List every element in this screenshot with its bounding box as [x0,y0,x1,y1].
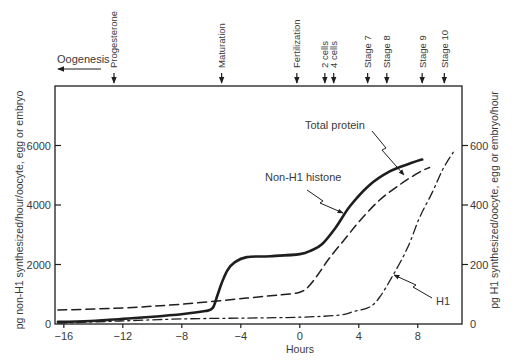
oogenesis-label: Oogenesis [57,53,110,65]
chart-figure: −16−12−8−4048 0200040006000 0200400600 P… [0,0,517,362]
event-label: Stage 9 [417,35,428,68]
event-fertilization: Fertilization [291,19,302,83]
curve-label-total-protein: Total protein [305,119,404,175]
event-progesterone: Progesterone [108,11,119,83]
y-axis-left-ticks: 0200040006000 [27,140,61,331]
x-axis-title: Hours [286,343,314,355]
event-label: Stage 8 [381,35,392,68]
y-left-tick-label: 2000 [27,259,51,271]
series-total-protein [58,168,430,311]
h1-label: H1 [436,295,450,307]
y-left-tick-label: 4000 [27,199,51,211]
y-right-tick-label: 200 [470,259,488,271]
developmental-events: ProgesteroneMaturationFertilization2 cel… [108,11,449,83]
data-series [58,152,453,323]
y-axis-right-ticks: 0200400600 [462,140,488,331]
event-stage-8: Stage 8 [381,35,392,83]
event-stage-7: Stage 7 [362,35,373,83]
series-non-h1-histone [58,160,422,322]
y-right-tick-label: 0 [470,318,476,330]
y-right-tick-label: 600 [470,140,488,152]
x-tick-label: −8 [176,330,189,342]
x-axis-ticks: −16−12−8−4048 [55,324,421,342]
curve-label-h1: H1 [394,275,450,307]
event-label: Maturation [216,23,227,68]
y-axis-left-title: pg non-H1 synthesized/hour/oocyte, egg o… [13,90,25,329]
x-tick-label: 8 [415,330,421,342]
x-tick-label: 0 [297,330,303,342]
pointer-arrow-icon [307,190,343,213]
event-label: Stage 7 [362,35,373,68]
pointer-arrow-icon [394,275,432,298]
event-stage-10: Stage 10 [439,30,450,83]
curve-label-non-h1-histone: Non-H1 histone [265,171,343,213]
event-label: 4 cells [328,41,339,68]
x-tick-label: −12 [113,330,132,342]
y-left-tick-label: 6000 [27,140,51,152]
event-label: Stage 10 [439,30,450,68]
plot-frame [55,86,462,324]
y-left-tick-label: 0 [45,318,51,330]
event-stage-9: Stage 9 [417,35,428,83]
total-protein-label: Total protein [305,119,365,131]
non-h1-histone-label: Non-H1 histone [265,171,341,183]
event-label: Progesterone [108,11,119,68]
oogenesis-indicator: Oogenesis [57,53,110,69]
event-maturation: Maturation [216,23,227,83]
y-right-tick-label: 400 [470,199,488,211]
x-tick-label: 4 [356,330,362,342]
event-label: Fertilization [291,19,302,68]
event-4-cells: 4 cells [328,41,339,83]
y-axis-right-title: pg H1 synthesized/oocyte, egg or embryo/… [488,91,500,309]
x-tick-label: −16 [55,330,74,342]
x-tick-label: −4 [235,330,248,342]
